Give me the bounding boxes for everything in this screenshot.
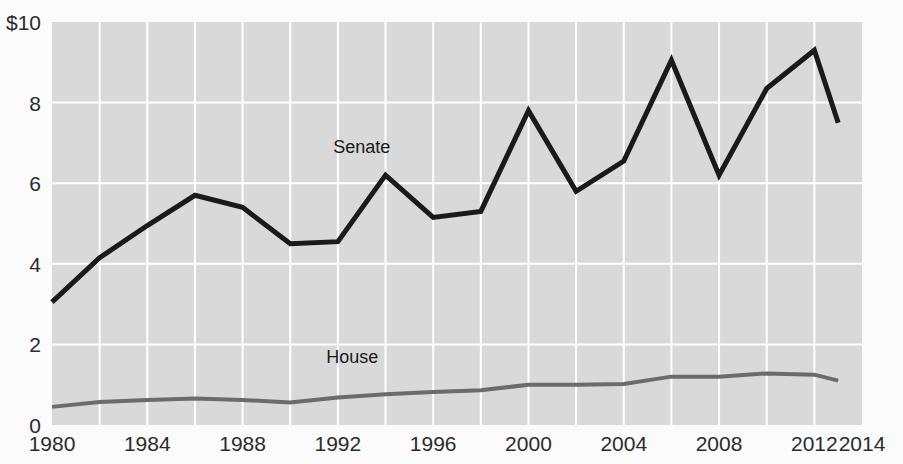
x-tick-label-1984: 1984 bbox=[124, 432, 171, 455]
x-tick-label-2004: 2004 bbox=[600, 432, 647, 455]
plot-area-background bbox=[52, 22, 862, 425]
x-tick-label-1980: 1980 bbox=[29, 432, 76, 455]
series-label-senate: Senate bbox=[333, 137, 390, 157]
y-tick-label-2: 2 bbox=[29, 333, 41, 356]
x-tick-label-1996: 1996 bbox=[410, 432, 457, 455]
y-tick-label-4: 4 bbox=[29, 253, 41, 276]
x-tick-label-1988: 1988 bbox=[219, 432, 266, 455]
y-tick-label-6: 6 bbox=[29, 172, 41, 195]
x-tick-label-2014: 2014 bbox=[839, 432, 886, 455]
x-tick-label-2000: 2000 bbox=[505, 432, 552, 455]
y-tick-label-10: $10 bbox=[6, 11, 41, 34]
line-chart: 02468$10 1980198419881992199620002004200… bbox=[0, 0, 903, 464]
x-tick-label-2012: 2012 bbox=[791, 432, 838, 455]
series-label-house: House bbox=[326, 347, 378, 367]
y-tick-label-8: 8 bbox=[29, 92, 41, 115]
x-tick-label-2008: 2008 bbox=[696, 432, 743, 455]
chart-container: 02468$10 1980198419881992199620002004200… bbox=[0, 0, 903, 464]
x-tick-label-1992: 1992 bbox=[315, 432, 362, 455]
